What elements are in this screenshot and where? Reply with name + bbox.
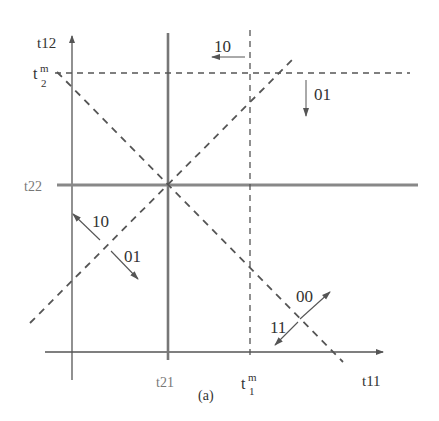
svg-text:m: m bbox=[248, 371, 257, 383]
arrow-00-up-right: 00 bbox=[296, 287, 330, 319]
svg-text:2: 2 bbox=[41, 77, 47, 89]
arrow-10-up-left: 10 bbox=[73, 212, 109, 240]
t21-label: t21 bbox=[156, 375, 174, 390]
svg-text:00: 00 bbox=[296, 287, 313, 306]
diagram-canvas: t12 t11 t22 t21 t m 2 t m 1 (a) 10 01 10… bbox=[0, 0, 439, 421]
svg-text:t: t bbox=[241, 375, 246, 392]
svg-text:01: 01 bbox=[124, 247, 141, 266]
svg-text:10: 10 bbox=[92, 212, 109, 231]
svg-text:11: 11 bbox=[270, 318, 286, 337]
x-axis-label: t11 bbox=[362, 373, 381, 389]
svg-text:m: m bbox=[40, 62, 49, 74]
svg-text:t: t bbox=[33, 65, 38, 82]
t2m-label: t m 2 bbox=[33, 62, 49, 89]
svg-text:01: 01 bbox=[314, 85, 331, 104]
svg-text:1: 1 bbox=[249, 385, 255, 397]
arrow-01-down-right: 01 bbox=[111, 247, 141, 279]
arrow-10-left: 10 bbox=[212, 37, 245, 57]
svg-text:10: 10 bbox=[214, 37, 231, 56]
t22-label: t22 bbox=[24, 179, 42, 194]
arrow-01-down: 01 bbox=[306, 80, 331, 116]
figure-caption: (a) bbox=[198, 388, 214, 404]
y-axis-label: t12 bbox=[37, 35, 56, 51]
arrow-11-down-left: 11 bbox=[270, 318, 298, 345]
ascending-diagonal bbox=[30, 60, 292, 323]
t1m-label: t m 1 bbox=[241, 371, 257, 397]
